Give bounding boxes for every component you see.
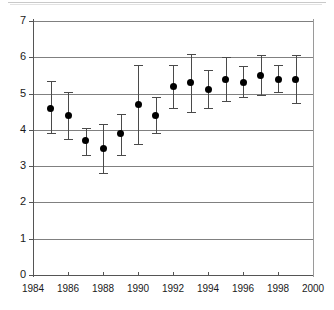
gridline (33, 130, 313, 131)
error-bar-cap-upper (99, 124, 108, 125)
error-bar-cap-lower (274, 92, 283, 93)
gridline (33, 57, 313, 58)
error-bar-cap-upper (82, 128, 91, 129)
data-point-marker (135, 101, 142, 108)
error-bar-cap-lower (47, 133, 56, 134)
error-bar-cap-upper (222, 57, 231, 58)
chart-screenshot: 01234567 1984198619881990199219941996199… (0, 0, 334, 310)
error-bar-cap-lower (239, 97, 248, 98)
data-point-marker (100, 145, 107, 152)
error-bar-cap-upper (204, 70, 213, 71)
error-bar-cap-upper (134, 65, 143, 66)
gridline (33, 166, 313, 167)
x-tick-label: 1988 (83, 283, 123, 294)
data-point-marker (222, 76, 229, 83)
error-bar-cap-upper (117, 114, 126, 115)
error-bar-cap-lower (292, 103, 301, 104)
data-point-marker (257, 72, 264, 79)
data-point-marker (65, 112, 72, 119)
error-bar-cap-lower (152, 133, 161, 134)
error-bar-cap-lower (187, 112, 196, 113)
error-bar-cap-upper (47, 81, 56, 82)
error-bar-cap-upper (239, 66, 248, 67)
x-tick-label: 1986 (48, 283, 88, 294)
x-tick-label: 1992 (153, 283, 193, 294)
y-tick-label: 3 (2, 160, 26, 171)
data-point-marker (117, 130, 124, 137)
y-tick-label: 0 (2, 269, 26, 280)
error-bar-chart: 01234567 1984198619881990199219941996199… (0, 0, 334, 310)
error-bar-cap-upper (257, 55, 266, 56)
y-tick-label: 5 (2, 88, 26, 99)
error-bar-cap-lower (134, 144, 143, 145)
data-point-marker (205, 86, 212, 93)
plot-right-border (313, 19, 314, 277)
error-bar-cap-lower (204, 108, 213, 109)
gridline (33, 239, 313, 240)
error-bar-cap-lower (99, 173, 108, 174)
x-tick-label: 1996 (223, 283, 263, 294)
data-point-marker (170, 83, 177, 90)
error-bar-cap-upper (274, 65, 283, 66)
error-bar-cap-lower (64, 139, 73, 140)
x-tick-label: 1994 (188, 283, 228, 294)
y-tick-label: 4 (2, 124, 26, 135)
y-tick-label: 7 (2, 15, 26, 26)
x-tick-label: 2000 (293, 283, 333, 294)
error-bar-cap-lower (169, 108, 178, 109)
x-tick-label: 1998 (258, 283, 298, 294)
gridline (33, 202, 313, 203)
data-point-marker (152, 112, 159, 119)
error-bar-cap-lower (117, 155, 126, 156)
y-axis-line (33, 19, 34, 277)
x-tick-label: 1990 (118, 283, 158, 294)
x-tick-label: 1984 (13, 283, 53, 294)
y-tick-label: 6 (2, 51, 26, 62)
y-tick-label: 1 (2, 233, 26, 244)
data-point-marker (82, 137, 89, 144)
error-bar-cap-upper (152, 97, 161, 98)
error-bar-cap-upper (292, 55, 301, 56)
data-point-marker (47, 105, 54, 112)
y-tick-label: 2 (2, 196, 26, 207)
gridline (33, 21, 313, 22)
error-bar-cap-lower (82, 155, 91, 156)
data-point-marker (240, 79, 247, 86)
data-point-marker (292, 76, 299, 83)
error-bar-cap-lower (222, 101, 231, 102)
error-bar-cap-upper (64, 92, 73, 93)
x-axis-line (32, 275, 314, 276)
error-bar-cap-upper (169, 65, 178, 66)
data-point-marker (187, 79, 194, 86)
error-bar-cap-lower (257, 95, 266, 96)
data-point-marker (275, 76, 282, 83)
error-bar-cap-upper (187, 54, 196, 55)
